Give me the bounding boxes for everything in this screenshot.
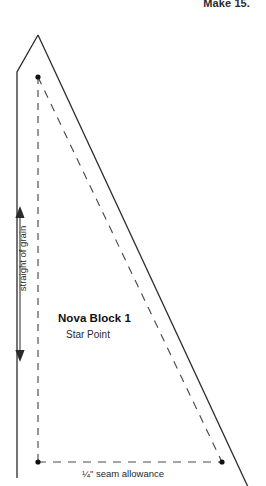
bottom-left-dot <box>35 459 40 464</box>
pattern-sheet: Make 15. straight of grain Nova Block 1 … <box>0 0 266 486</box>
stitch-line-hypotenuse <box>38 77 222 462</box>
cutting-line-hypotenuse <box>38 35 248 486</box>
block-subtitle: Star Point <box>66 329 110 340</box>
apex-dot <box>35 74 40 79</box>
block-title: Nova Block 1 <box>58 312 131 324</box>
straight-of-grain-label: straight of grain <box>17 204 28 314</box>
bottom-right-dot <box>219 459 224 464</box>
pattern-drawing <box>0 0 266 486</box>
seam-allowance-label: ¼" seam allowance <box>82 468 164 479</box>
